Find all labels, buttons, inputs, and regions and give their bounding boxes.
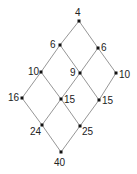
node-n10b: [115, 72, 118, 75]
node-label: 4: [75, 7, 81, 18]
node-label: 15: [102, 95, 114, 106]
edge-n16-n24: [22, 98, 42, 125]
node-label: 25: [82, 126, 94, 137]
edge-n4-n6b: [79, 21, 98, 48]
node-n6b: [97, 47, 100, 50]
node-n40: [60, 151, 63, 154]
lattice-diagram: 46610910161515242540: [0, 0, 137, 174]
edge-n4-n6a: [60, 21, 79, 45]
node-label: 9: [70, 67, 76, 78]
node-label: 24: [30, 126, 42, 137]
node-label: 6: [101, 42, 107, 53]
node-label: 15: [64, 94, 76, 105]
edge-n6b-n9: [80, 48, 98, 73]
node-label: 6: [50, 39, 56, 50]
node-n16: [21, 97, 24, 100]
node-label: 40: [54, 157, 66, 168]
node-label: 16: [8, 92, 20, 103]
edge-n24-n40: [42, 125, 61, 152]
edge-n15b-n25: [80, 100, 99, 126]
node-n15b: [98, 99, 101, 102]
node-n15a: [60, 98, 63, 101]
node-label: 10: [119, 69, 131, 80]
node-n6a: [59, 44, 62, 47]
node-n4: [78, 20, 81, 23]
edge-n9-n15b: [80, 73, 99, 100]
node-n10a: [40, 71, 43, 74]
edge-n15a-n24: [42, 99, 61, 125]
node-label: 10: [28, 66, 40, 77]
node-n9: [79, 72, 82, 75]
edge-n25-n40: [61, 126, 80, 152]
edge-n10a-n15a: [41, 72, 61, 99]
